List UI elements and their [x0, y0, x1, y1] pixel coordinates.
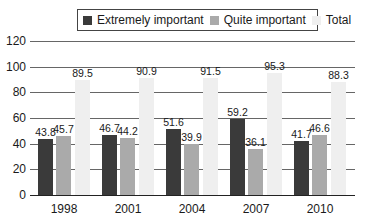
value-label: 45.7	[49, 123, 79, 135]
bar-extremely-important	[230, 119, 245, 195]
bar-total	[75, 80, 90, 195]
x-tick-label: 2007	[231, 202, 281, 216]
gridline	[30, 41, 355, 42]
bar-chart-plot-area: 02040608010012043.845.789.5199846.744.29…	[0, 0, 366, 224]
bar-quite-important	[120, 138, 135, 195]
x-tick-label: 2001	[103, 202, 153, 216]
bar-extremely-important	[38, 139, 53, 195]
value-label: 39.9	[177, 131, 207, 143]
value-label: 44.2	[113, 125, 143, 137]
y-tick-label: 60	[2, 111, 26, 125]
bar-extremely-important	[294, 141, 309, 195]
y-tick-label: 100	[2, 60, 26, 74]
value-label: 88.3	[324, 69, 354, 81]
value-label: 46.6	[305, 122, 335, 134]
y-tick-label: 0	[2, 188, 26, 202]
x-axis-line	[30, 195, 355, 196]
x-tick-label: 2004	[167, 202, 217, 216]
bar-quite-important	[312, 135, 327, 195]
value-label: 59.2	[223, 106, 253, 118]
bar-quite-important	[248, 149, 263, 195]
value-label: 36.1	[241, 136, 271, 148]
bar-extremely-important	[102, 135, 117, 195]
y-tick-label: 20	[2, 162, 26, 176]
bar-total	[331, 82, 346, 195]
value-label: 51.6	[159, 116, 189, 128]
y-tick-label: 80	[2, 85, 26, 99]
value-label: 91.5	[196, 65, 226, 77]
bar-total	[267, 73, 282, 195]
bar-quite-important	[184, 144, 199, 195]
bar-total	[203, 78, 218, 195]
value-label: 89.5	[68, 67, 98, 79]
value-label: 95.3	[260, 60, 290, 72]
x-tick-label: 1998	[39, 202, 89, 216]
bar-quite-important	[56, 136, 71, 195]
bar-total	[139, 78, 154, 195]
value-label: 90.9	[132, 65, 162, 77]
y-tick-label: 120	[2, 34, 26, 48]
x-tick-label: 2010	[295, 202, 345, 216]
y-tick-label: 40	[2, 137, 26, 151]
